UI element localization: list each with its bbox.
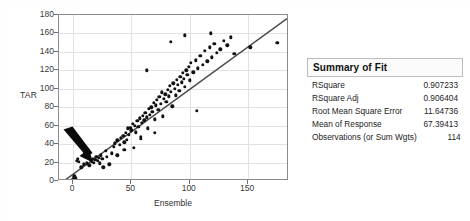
summary-row-label: RSquare [312, 80, 414, 91]
screenshot-root: TAR 020406080100120140160180 050100150 E… [0, 0, 470, 221]
summary-of-fit-title: Summary of Fit [307, 58, 463, 77]
y-axis-tick-label: 80 [28, 102, 54, 110]
summary-row-value: 114 [417, 132, 461, 143]
x-axis-tick-label: 50 [126, 184, 135, 193]
x-axis-tick-mark [72, 180, 73, 184]
y-axis-tick-label: 180 [28, 10, 54, 18]
summary-row: Root Mean Square Error11.64736 [307, 105, 463, 118]
summary-row-value: 0.906404 [414, 93, 458, 104]
y-axis-tick-label: 40 [28, 139, 54, 147]
summary-row-value: 11.64736 [414, 106, 458, 117]
annotation-arrow-icon [62, 126, 96, 164]
summary-row: RSquare Adj0.906404 [307, 92, 463, 105]
summary-row-value: 0.907233 [414, 80, 458, 91]
y-axis-tick-label: 100 [28, 84, 54, 92]
y-axis-tick-label: 120 [28, 65, 54, 73]
x-axis-title: Ensemble [154, 198, 192, 208]
x-axis-tick-mark [189, 180, 190, 184]
y-axis-tick-label: 0 [28, 176, 54, 184]
summary-of-fit-rows: RSquare0.907233RSquare Adj0.906404Root M… [307, 79, 463, 144]
x-axis-tick-mark [247, 180, 248, 184]
summary-row-label: RSquare Adj [312, 93, 414, 104]
bivariate-fit-plot: TAR 020406080100120140160180 050100150 E… [0, 0, 300, 221]
x-axis-tick-mark [130, 180, 131, 184]
y-axis-tick-label: 20 [28, 158, 54, 166]
y-axis-tick-label: 60 [28, 121, 54, 129]
summary-row-label: Root Mean Square Error [312, 106, 414, 117]
y-axis-tick-labels: 020406080100120140160180 [26, 0, 54, 221]
summary-row-label: Observations (or Sum Wgts) [312, 132, 417, 143]
x-axis-tick-label: 100 [182, 184, 196, 193]
summary-row: Mean of Response67.39413 [307, 118, 463, 131]
x-axis-tick-label: 150 [240, 184, 254, 193]
summary-row-value: 67.39413 [414, 119, 458, 130]
scatter-point [74, 177, 77, 180]
y-axis-tick-label: 160 [28, 28, 54, 36]
summary-row: RSquare0.907233 [307, 79, 463, 92]
y-axis-tick-label: 140 [28, 47, 54, 55]
x-axis-tick-label: 0 [70, 184, 75, 193]
summary-of-fit-table: Summary of Fit RSquare0.907233RSquare Ad… [307, 58, 463, 144]
summary-row-label: Mean of Response [312, 119, 414, 130]
y-axis-tick-mark [54, 180, 58, 181]
summary-row: Observations (or Sum Wgts)114 [307, 131, 463, 144]
